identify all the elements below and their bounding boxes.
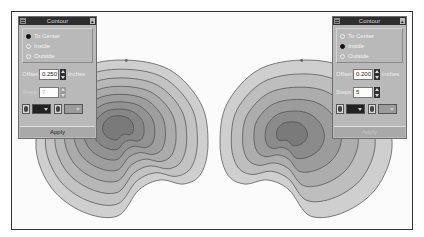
offset-input[interactable]: 0.250 bbox=[39, 69, 59, 80]
node-handle[interactable] bbox=[125, 59, 128, 62]
radio-label: To Center bbox=[348, 33, 374, 39]
offset-label: Offset bbox=[336, 71, 353, 77]
radio-dot-icon bbox=[26, 54, 31, 59]
unit-label: inches bbox=[382, 71, 399, 77]
radio-inside[interactable]: Inside bbox=[23, 41, 92, 51]
offset-input[interactable]: 0.200 bbox=[353, 69, 373, 80]
color-tools-row bbox=[333, 103, 406, 115]
window-menu-icon[interactable] bbox=[20, 18, 26, 24]
outline-color-dropdown[interactable] bbox=[346, 104, 365, 114]
steps-spinner[interactable] bbox=[374, 87, 380, 98]
fill-bucket-icon bbox=[56, 106, 60, 112]
window-menu-icon[interactable] bbox=[334, 18, 340, 24]
radio-label: To Center bbox=[34, 33, 60, 39]
fill-color-dropdown[interactable] bbox=[64, 104, 83, 114]
radio-outside[interactable]: Outside bbox=[337, 51, 402, 61]
pen-icon bbox=[338, 106, 342, 112]
apply-button[interactable]: Apply bbox=[20, 126, 95, 137]
steps-spinner[interactable] bbox=[60, 87, 66, 98]
pen-icon bbox=[24, 106, 28, 112]
radio-label: Outside bbox=[34, 53, 55, 59]
steps-row: Steps 7 bbox=[19, 85, 96, 99]
offset-row: Offset 0.200 inches bbox=[333, 67, 406, 81]
radio-label: Inside bbox=[34, 43, 50, 49]
radio-label: Inside bbox=[348, 43, 364, 49]
offset-spinner[interactable] bbox=[60, 69, 66, 80]
apply-button[interactable]: Apply bbox=[334, 126, 405, 137]
steps-input[interactable]: 7 bbox=[39, 87, 59, 98]
unit-label: inches bbox=[68, 71, 85, 77]
radio-inside[interactable]: Inside bbox=[337, 41, 402, 51]
outline-pen-button[interactable] bbox=[336, 104, 344, 114]
outline-color-dropdown[interactable] bbox=[32, 104, 51, 114]
rollup-title: Contour bbox=[47, 18, 68, 24]
contour-rollup-left: Contour ▴ To Center Inside Outside Offse… bbox=[18, 16, 97, 139]
radio-outside[interactable]: Outside bbox=[23, 51, 92, 61]
color-tools-row bbox=[19, 103, 96, 115]
fill-bucket-icon bbox=[370, 106, 374, 112]
offset-spinner[interactable] bbox=[374, 69, 380, 80]
node-handle[interactable] bbox=[300, 59, 303, 62]
roll-up-icon[interactable]: ▴ bbox=[90, 18, 95, 24]
fill-color-dropdown[interactable] bbox=[378, 104, 397, 114]
radio-dot-icon bbox=[340, 44, 345, 49]
radio-dot-icon bbox=[340, 34, 345, 39]
steps-input[interactable]: 5 bbox=[353, 87, 373, 98]
steps-label: Steps bbox=[22, 89, 39, 95]
rollup-titlebar[interactable]: Contour ▴ bbox=[333, 17, 406, 25]
offset-label: Offset bbox=[22, 71, 39, 77]
rollup-title: Contour bbox=[359, 18, 380, 24]
fill-bucket-button[interactable] bbox=[54, 104, 62, 114]
roll-up-icon[interactable]: ▴ bbox=[400, 18, 405, 24]
radio-label: Outside bbox=[348, 53, 369, 59]
contour-rollup-right: Contour ▴ To Center Inside Outside Offse… bbox=[332, 16, 407, 139]
steps-row: Steps 5 bbox=[333, 85, 406, 99]
radio-dot-icon bbox=[26, 44, 31, 49]
contour-mode-group: To Center Inside Outside bbox=[22, 28, 93, 63]
rollup-titlebar[interactable]: Contour ▴ bbox=[19, 17, 96, 25]
steps-label: Steps bbox=[336, 89, 353, 95]
contour-mode-group: To Center Inside Outside bbox=[336, 28, 403, 63]
radio-dot-icon bbox=[340, 54, 345, 59]
radio-to-center[interactable]: To Center bbox=[23, 31, 92, 41]
fill-bucket-button[interactable] bbox=[368, 104, 376, 114]
outline-pen-button[interactable] bbox=[22, 104, 30, 114]
offset-row: Offset 0.250 inches bbox=[19, 67, 96, 81]
radio-to-center[interactable]: To Center bbox=[337, 31, 402, 41]
radio-dot-icon bbox=[26, 34, 31, 39]
